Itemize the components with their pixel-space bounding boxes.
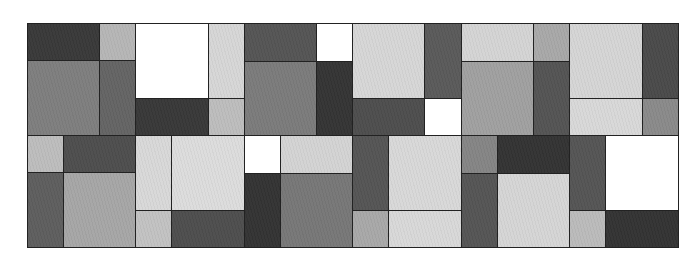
mosaic-cell bbox=[533, 23, 570, 62]
mosaic-cell bbox=[352, 98, 425, 136]
mosaic-cell bbox=[569, 210, 606, 248]
mosaic-cell bbox=[388, 210, 462, 248]
mosaic-cell bbox=[497, 173, 570, 248]
mosaic-cell bbox=[352, 23, 425, 99]
mosaic-cell bbox=[352, 135, 389, 211]
mosaic-cell bbox=[27, 60, 100, 136]
mosaic-cell bbox=[316, 23, 353, 62]
mosaic-cell bbox=[533, 61, 570, 136]
mosaic-cell bbox=[605, 135, 679, 211]
mosaic-cell bbox=[424, 98, 462, 136]
mosaic-cell bbox=[280, 135, 353, 174]
mosaic-cell bbox=[135, 98, 209, 136]
mosaic-cell bbox=[461, 135, 498, 174]
mosaic-cell bbox=[352, 210, 389, 248]
mosaic-cell bbox=[316, 61, 353, 136]
mosaic-cell bbox=[99, 60, 136, 136]
mosaic-cell bbox=[171, 210, 245, 248]
mosaic-cell bbox=[388, 135, 462, 211]
mosaic-cell bbox=[569, 135, 606, 211]
mosaic-cell bbox=[244, 61, 317, 136]
mosaic-cell bbox=[135, 135, 172, 211]
mosaic-cell bbox=[569, 23, 643, 99]
mondrian-mosaic bbox=[27, 23, 678, 247]
mosaic-cell bbox=[461, 173, 498, 248]
mosaic-cell bbox=[461, 23, 534, 62]
mosaic-cell bbox=[208, 23, 245, 99]
mosaic-cell bbox=[569, 98, 643, 136]
mosaic-cell bbox=[63, 172, 136, 248]
mosaic-cell bbox=[63, 135, 136, 173]
mosaic-cell bbox=[27, 23, 100, 61]
mosaic-cell bbox=[280, 173, 353, 248]
mosaic-cell bbox=[135, 23, 209, 99]
mosaic-cell bbox=[642, 98, 679, 136]
mosaic-cell bbox=[135, 210, 172, 248]
mosaic-cell bbox=[461, 61, 534, 136]
mosaic-cell bbox=[244, 23, 317, 62]
mosaic-cell bbox=[99, 23, 136, 61]
mosaic-cell bbox=[244, 173, 281, 248]
mosaic-cell bbox=[642, 23, 679, 99]
mosaic-cell bbox=[605, 210, 679, 248]
mosaic-cell bbox=[27, 172, 64, 248]
mosaic-cell bbox=[27, 135, 64, 173]
mosaic-cell bbox=[244, 135, 281, 174]
mosaic-cell bbox=[424, 23, 462, 99]
mosaic-cell bbox=[171, 135, 245, 211]
mosaic-cell bbox=[497, 135, 570, 174]
canvas bbox=[0, 0, 693, 262]
mosaic-cell bbox=[208, 98, 245, 136]
